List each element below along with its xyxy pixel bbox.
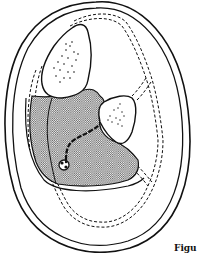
cross-section-diagram (0, 0, 198, 253)
vessel-bundle-icon (59, 160, 69, 170)
large-bone (42, 25, 91, 98)
anatomical-figure: Figu (0, 0, 198, 253)
figure-caption: Figu (174, 244, 197, 253)
